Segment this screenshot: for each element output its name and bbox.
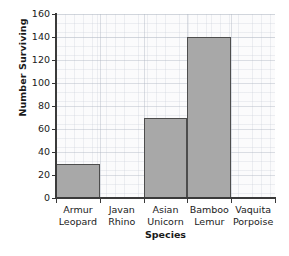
y-axis-tick-label: 160 [20, 9, 50, 19]
x-axis-tick-label-line: Porpoise [228, 216, 278, 228]
x-axis-tick-label-line: Leopard [53, 216, 103, 228]
x-axis-tick-label-line: Bamboo [184, 204, 234, 216]
y-axis-tick-mark [52, 106, 56, 107]
x-axis-line [55, 197, 276, 199]
x-axis-tick-label-line: Unicorn [141, 216, 191, 228]
x-axis-tick-label-line: Lemur [184, 216, 234, 228]
x-axis-tick-label: JavanRhino [97, 204, 147, 227]
x-axis-tick-label-line: Vaquita [228, 204, 278, 216]
x-axis-tick-label-line: Asian [141, 204, 191, 216]
y-axis-tick-label: 60 [20, 124, 50, 134]
x-axis-tick-label: VaquitaPorpoise [228, 204, 278, 227]
grid-line-horizontal [56, 14, 275, 15]
x-axis-tick-mark [56, 199, 57, 203]
bar-chart: Number Surviving 020406080100120140160 A… [0, 0, 289, 256]
y-axis-tick-mark [52, 83, 56, 84]
x-axis-tick-mark [231, 199, 232, 203]
y-axis-tick-label: 0 [20, 193, 50, 203]
y-axis-tick-label: 140 [20, 32, 50, 42]
y-axis-tick-label: 40 [20, 147, 50, 157]
y-axis-tick-mark [52, 152, 56, 153]
bar [56, 164, 100, 199]
plot-area [56, 14, 275, 198]
x-axis-tick-mark [275, 199, 276, 203]
y-axis-tick-mark [52, 198, 56, 199]
x-axis-tick-label-line: Armur [53, 204, 103, 216]
x-axis-title: Species [56, 229, 275, 240]
bar [187, 37, 231, 198]
grid-line-vertical [100, 14, 101, 198]
y-axis-tick-mark [52, 37, 56, 38]
grid-line-horizontal [56, 37, 275, 38]
y-axis-tick-labels: 020406080100120140160 [20, 0, 50, 256]
grid-line-horizontal [56, 60, 275, 61]
x-axis-tick-label-line: Rhino [97, 216, 147, 228]
x-axis-tick-label: BambooLemur [184, 204, 234, 227]
y-axis-tick-mark [52, 60, 56, 61]
bar [144, 118, 188, 199]
y-axis-tick-mark [52, 14, 56, 15]
x-axis-tick-mark [144, 199, 145, 203]
y-axis-tick-mark [52, 129, 56, 130]
x-axis-tick-mark [187, 199, 188, 203]
x-axis-tick-mark [100, 199, 101, 203]
x-axis-tick-label: AsianUnicorn [141, 204, 191, 227]
grid-line-vertical [231, 14, 232, 198]
x-axis-tick-label-line: Javan [97, 204, 147, 216]
y-axis-tick-label: 80 [20, 101, 50, 111]
y-axis-tick-mark [52, 175, 56, 176]
y-axis-tick-label: 100 [20, 78, 50, 88]
grid-line-horizontal [56, 106, 275, 107]
y-axis-tick-label: 20 [20, 170, 50, 180]
y-axis-tick-label: 120 [20, 55, 50, 65]
x-axis-tick-label: ArmurLeopard [53, 204, 103, 227]
grid-line-horizontal [56, 83, 275, 84]
